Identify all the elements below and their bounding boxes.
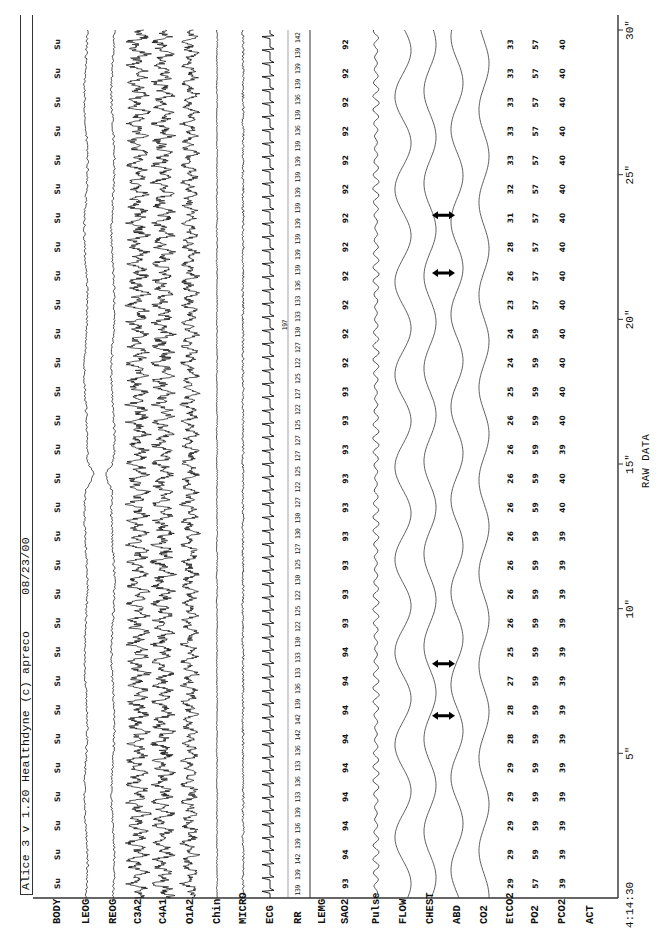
record-title: Alice 3 v 1.20 Healthdyne (c) apreco 08/… bbox=[19, 537, 33, 890]
pco2-value: 39 bbox=[558, 618, 567, 628]
sao2-value: 93 bbox=[341, 473, 350, 483]
sao2-value: 92 bbox=[341, 329, 350, 339]
sao2-value: 92 bbox=[341, 358, 350, 368]
channel-label-chest: CHEST bbox=[424, 880, 436, 924]
rr-value: 139 bbox=[294, 250, 302, 260]
sao2-value: 92 bbox=[341, 126, 350, 136]
polysomnography-sheet: Alice 3 v 1.20 Healthdyne (c) apreco 08/… bbox=[0, 0, 660, 928]
rr-value: 136 bbox=[294, 126, 302, 136]
pco2-value: 39 bbox=[558, 878, 567, 888]
channel-label-chin: Chin bbox=[211, 880, 223, 924]
rr-value: 125 bbox=[294, 374, 302, 384]
micro-trace bbox=[242, 30, 245, 898]
body-position-value: Su bbox=[53, 213, 62, 224]
rr-value: 133 bbox=[294, 761, 302, 771]
pco2-value: 39 bbox=[558, 589, 567, 599]
body-position-value: Su bbox=[53, 155, 62, 166]
rr-value: 139 bbox=[294, 157, 302, 167]
rr-value: 142 bbox=[294, 854, 302, 864]
po2-value: 57 bbox=[531, 184, 540, 194]
paradox-arrow-icon bbox=[432, 712, 455, 720]
pco2-value: 40 bbox=[558, 184, 567, 194]
body-position-value: Su bbox=[53, 734, 62, 745]
body-position-value: Su bbox=[53, 849, 62, 860]
rr-value: 139 bbox=[294, 79, 302, 89]
rr-value: 136 bbox=[294, 777, 302, 787]
etco2-value: 32 bbox=[506, 184, 515, 194]
po2-value: 57 bbox=[531, 242, 540, 252]
channel-label-ecg: ECG bbox=[264, 880, 276, 924]
body-position-value: Su bbox=[53, 184, 62, 195]
rr-value: 130 bbox=[294, 513, 302, 523]
waveform-plot bbox=[0, 0, 660, 928]
body-position-value: Su bbox=[53, 560, 62, 571]
po2-value: 59 bbox=[531, 358, 540, 368]
sao2-value: 94 bbox=[341, 763, 350, 773]
body-position-value: Su bbox=[53, 705, 62, 716]
body-position-value: Su bbox=[53, 762, 62, 773]
channel-label-micro: MICRO bbox=[237, 880, 249, 924]
po2-value: 59 bbox=[531, 647, 540, 657]
pco2-value: 40 bbox=[558, 155, 567, 165]
body-position-value: Su bbox=[53, 97, 62, 108]
po2-value: 57 bbox=[531, 68, 540, 78]
ecg-trace bbox=[262, 30, 274, 898]
sao2-value: 93 bbox=[341, 618, 350, 628]
rr-value: 139 bbox=[294, 870, 302, 880]
po2-value: 57 bbox=[531, 271, 540, 281]
body-position-value: Su bbox=[53, 531, 62, 542]
time-tick-label: 30" bbox=[624, 20, 636, 40]
flow-trace bbox=[395, 30, 411, 898]
raw-data-label: RAW DATA bbox=[640, 434, 652, 488]
pco2-value: 39 bbox=[558, 849, 567, 859]
body-position-value: Su bbox=[53, 386, 62, 397]
rr-value: 133 bbox=[294, 653, 302, 663]
body-position-value: Su bbox=[53, 618, 62, 629]
pco2-value: 40 bbox=[558, 68, 567, 78]
abd-trace bbox=[451, 30, 463, 898]
rr-value: 139 bbox=[294, 172, 302, 182]
po2-value: 59 bbox=[531, 386, 540, 396]
sao2-value: 93 bbox=[341, 531, 350, 541]
pco2-value: 39 bbox=[558, 792, 567, 802]
pco2-value: 40 bbox=[558, 97, 567, 107]
pco2-value: 39 bbox=[558, 444, 567, 454]
rr-value: 125 bbox=[294, 420, 302, 430]
body-position-value: Su bbox=[53, 271, 62, 282]
time-tick-label: 15" bbox=[624, 454, 636, 474]
channel-label-c4a1: C4A1 bbox=[157, 880, 169, 924]
pco2-value: 40 bbox=[558, 242, 567, 252]
rr-value: 133 bbox=[294, 312, 302, 322]
etco2-value: 28 bbox=[506, 734, 515, 744]
po2-value: 57 bbox=[531, 878, 540, 888]
sao2-value: 92 bbox=[341, 213, 350, 223]
po2-value: 59 bbox=[531, 473, 540, 483]
po2-value: 59 bbox=[531, 329, 540, 339]
etco2-value: 26 bbox=[506, 271, 515, 281]
rr-value: 122 bbox=[294, 482, 302, 492]
etco2-value: 29 bbox=[506, 820, 515, 830]
etco2-value: 33 bbox=[506, 155, 515, 165]
rr-value: 139 bbox=[294, 808, 302, 818]
time-tick-label: 20" bbox=[624, 309, 636, 329]
channel-label-o1a2: O1A2 bbox=[184, 880, 196, 924]
body-position-value: Su bbox=[53, 444, 62, 455]
body-position-value: Su bbox=[53, 126, 62, 137]
channel-label-co2: CO2 bbox=[478, 880, 490, 924]
po2-value: 59 bbox=[531, 763, 540, 773]
rr-value: 133 bbox=[294, 296, 302, 306]
po2-value: 59 bbox=[531, 618, 540, 628]
o1a2-trace bbox=[179, 30, 200, 898]
etco2-value: 26 bbox=[506, 502, 515, 512]
etco2-value: 26 bbox=[506, 415, 515, 425]
rr-value: 139 bbox=[294, 265, 302, 275]
sao2-value: 93 bbox=[341, 589, 350, 599]
rr-value: 122 bbox=[294, 405, 302, 415]
pco2-value: 39 bbox=[558, 820, 567, 830]
pco2-value: 40 bbox=[558, 473, 567, 483]
body-position-value: Su bbox=[53, 878, 62, 889]
po2-value: 57 bbox=[531, 97, 540, 107]
etco2-value: 29 bbox=[506, 792, 515, 802]
rr-value: 127 bbox=[294, 451, 302, 461]
rr-value: 130 bbox=[294, 575, 302, 585]
